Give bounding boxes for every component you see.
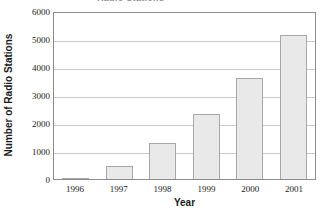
bar-slot <box>141 13 185 179</box>
y-tick-label: 0 <box>16 176 50 185</box>
bar-slot <box>228 13 272 179</box>
bar-1998[interactable] <box>149 143 176 179</box>
x-tick-label: 1999 <box>184 183 228 195</box>
y-axis-tick-labels: 0100020003000400050006000 <box>16 0 50 214</box>
x-axis-tick-labels: 199619971998199920002001 <box>53 183 316 195</box>
y-axis-title: Number of Radio Stations <box>2 0 16 190</box>
plot-area <box>53 12 316 180</box>
bar-2001[interactable] <box>280 35 307 179</box>
x-tick-label: 1996 <box>53 183 97 195</box>
bar-1999[interactable] <box>193 114 220 179</box>
x-tick-label: 2001 <box>272 183 316 195</box>
y-tick-label: 1000 <box>16 148 50 157</box>
x-tick-label: 2000 <box>228 183 272 195</box>
bar-1997[interactable] <box>106 166 133 179</box>
x-axis-title: Year <box>53 197 316 209</box>
bar-slot <box>54 13 98 179</box>
chart-title: Radio Stations <box>97 0 164 3</box>
bar-slot <box>185 13 229 179</box>
y-tick-label: 6000 <box>16 8 50 17</box>
y-tick-label: 4000 <box>16 64 50 73</box>
bar-chart-figure: Radio Stations Number of Radio Stations … <box>0 0 326 214</box>
bar-slot <box>98 13 142 179</box>
x-tick-label: 1997 <box>97 183 141 195</box>
y-tick-label: 5000 <box>16 36 50 45</box>
bar-slot <box>272 13 316 179</box>
bar-1996[interactable] <box>62 178 89 179</box>
bar-2000[interactable] <box>236 78 263 179</box>
y-tick-label: 2000 <box>16 120 50 129</box>
y-tick-label: 3000 <box>16 92 50 101</box>
bar-series <box>54 13 315 179</box>
x-tick-label: 1998 <box>141 183 185 195</box>
